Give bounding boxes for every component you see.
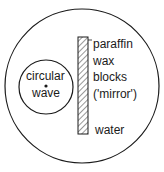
paraffin-label: paraffin — [93, 38, 133, 51]
circular-label: circular — [26, 70, 65, 83]
mirror-label: ('mirror') — [93, 88, 137, 101]
paraffin-wax-mirror — [78, 37, 88, 134]
water-label: water — [95, 124, 124, 137]
blocks-label: blocks — [93, 71, 127, 84]
ripple-tank-diagram — [0, 0, 164, 172]
wave-label: wave — [32, 87, 60, 100]
wax-label: wax — [93, 55, 114, 68]
